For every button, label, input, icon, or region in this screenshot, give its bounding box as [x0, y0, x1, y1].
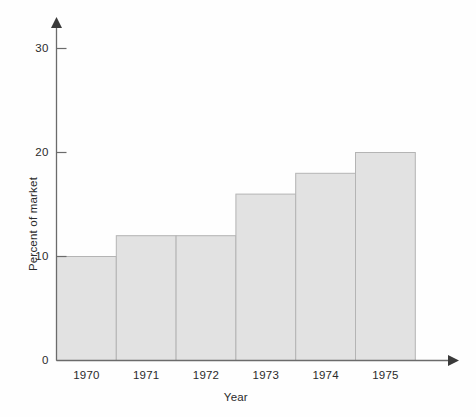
y-axis-arrow-icon: [51, 17, 62, 28]
x-tick-label-1972: 1972: [176, 369, 236, 381]
bar-1975: [356, 153, 416, 361]
y-tick-label-30: 30: [19, 42, 49, 54]
x-tick-label-1971: 1971: [116, 369, 176, 381]
x-tick-label-1975: 1975: [355, 369, 415, 381]
bar-1974: [296, 173, 356, 360]
x-tick-label-1973: 1973: [236, 369, 296, 381]
x-tick-label-1970: 1970: [56, 369, 116, 381]
y-ticks-group: [57, 49, 67, 257]
y-tick-label-0: 0: [19, 354, 49, 366]
bars-group: [57, 153, 416, 361]
bar-1973: [236, 194, 296, 360]
x-axis-arrow-icon: [448, 355, 459, 366]
bar-1971: [116, 236, 176, 361]
bar-1972: [176, 236, 236, 361]
chart-canvas: [0, 0, 476, 417]
bar-1970: [57, 257, 117, 361]
x-tick-label-1974: 1974: [296, 369, 356, 381]
y-axis-title: Percent of market: [27, 144, 39, 304]
bar-chart-figure: 0102030 197019711972197319741975 Percent…: [0, 0, 476, 417]
x-axis-title: Year: [176, 391, 296, 403]
